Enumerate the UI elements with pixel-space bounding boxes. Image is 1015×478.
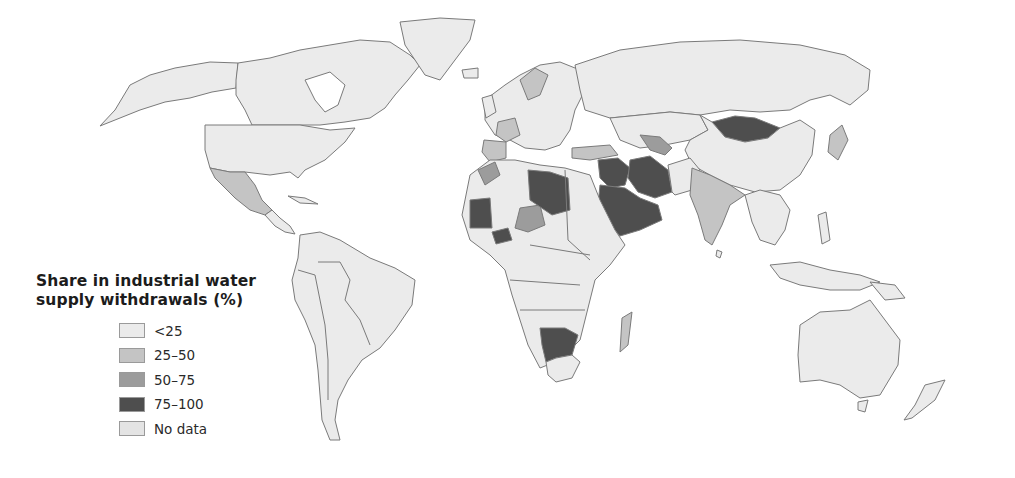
legend-swatch (119, 323, 145, 338)
region-korea-japan (828, 125, 848, 160)
region-sri-lanka (716, 250, 722, 258)
legend-label: 75–100 (154, 396, 204, 412)
legend-swatch (119, 397, 145, 412)
region-usa (205, 125, 355, 178)
legend-title-line1: Share in industrial water (36, 272, 256, 291)
legend-swatch (119, 348, 145, 363)
region-madagascar (620, 312, 632, 352)
region-central-america (265, 210, 295, 234)
legend-item-50-75: 50–75 (119, 369, 256, 390)
legend-label: 50–75 (154, 372, 195, 388)
region-mexico (210, 168, 272, 215)
region-philippines (818, 212, 830, 244)
legend-items: <25 25–50 50–75 75–100 No data (119, 320, 256, 439)
region-southeast-asia (745, 190, 790, 245)
legend-item-lt25: <25 (119, 320, 256, 341)
region-cuba (288, 196, 318, 204)
region-alaska (100, 62, 238, 126)
region-spain (482, 140, 506, 162)
legend-label: No data (154, 421, 207, 437)
legend-swatch (119, 421, 145, 436)
region-iran (628, 156, 672, 198)
region-iceland (462, 68, 478, 78)
region-indonesia (770, 262, 880, 290)
region-turkey (572, 145, 618, 160)
legend-item-no-data: No data (119, 418, 256, 439)
region-papua (870, 282, 905, 300)
region-south-america (292, 232, 415, 440)
legend-label: <25 (154, 323, 183, 339)
legend-title: Share in industrial water supply withdra… (36, 272, 256, 310)
region-syria-iraq (598, 158, 630, 188)
region-russia (575, 40, 870, 118)
legend-label: 25–50 (154, 347, 195, 363)
region-new-zealand (904, 380, 945, 420)
region-mauritania (470, 198, 492, 228)
legend-swatch (119, 372, 145, 387)
legend-item-25-50: 25–50 (119, 345, 256, 366)
region-australia (798, 300, 900, 398)
legend-title-line2: supply withdrawals (%) (36, 291, 256, 310)
legend: Share in industrial water supply withdra… (36, 272, 256, 443)
legend-item-75-100: 75–100 (119, 394, 256, 415)
region-tasmania (858, 400, 868, 412)
